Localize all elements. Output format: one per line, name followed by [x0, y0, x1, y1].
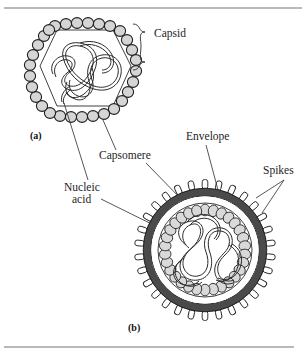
label-envelope: Envelope [186, 130, 229, 143]
label-nucleic-acid-line1: Nucleic [64, 181, 100, 193]
panel-letter-b: (b) [128, 322, 140, 334]
label-capsomere: Capsomere [99, 149, 151, 162]
label-nucleic-acid-line2: acid [72, 193, 91, 205]
virus-structure-diagram: (a) Capsid Capsomere Nucleic acid [0, 0, 306, 361]
label-spikes: Spikes [263, 164, 294, 177]
panel-letter-a: (a) [30, 130, 42, 142]
label-capsid: Capsid [154, 27, 186, 40]
spike [202, 311, 208, 321]
figure-container: (a) Capsid Capsomere Nucleic acid [0, 0, 306, 361]
spike [202, 180, 208, 190]
